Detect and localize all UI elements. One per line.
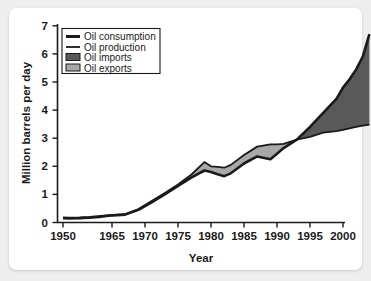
x-tick-label: 1985 [231,230,257,242]
y-tick-label: 0 [42,217,48,229]
legend-label: Oil consumption [84,31,156,42]
y-tick-label: 5 [42,76,49,88]
oil-consumption-production-chart: 0 1 2 3 4 5 6 7 1950 1965 1970 1975 [0,0,371,281]
oil-imports-area [297,34,370,139]
y-tick-label: 1 [42,188,49,200]
oil-exports-area [63,140,297,219]
x-tick-label: 2000 [330,230,356,242]
x-axis-tick-labels: 1950 1965 1970 1975 1980 1985 1990 1995 … [50,230,356,242]
x-tick-label: 1950 [50,230,76,242]
y-tick-label: 4 [42,104,49,116]
y-tick-label: 7 [42,20,48,32]
x-tick-label: 1970 [132,230,158,242]
x-axis-title: Year [189,252,214,264]
y-axis-tick-labels: 0 1 2 3 4 5 6 7 [42,20,49,229]
x-tick-label: 1990 [264,230,290,242]
x-tick-label: 1965 [99,230,125,242]
legend-swatch-exports-icon [66,64,80,71]
legend-label: Oil imports [84,52,132,63]
page-background: 0 1 2 3 4 5 6 7 1950 1965 1970 1975 [0,0,371,281]
legend-swatch-imports-icon [66,54,80,61]
y-tick-label: 2 [42,160,48,172]
x-tick-label: 1980 [198,230,224,242]
legend-label: Oil production [84,42,146,53]
x-tick-label: 1975 [165,230,191,242]
y-axis-title: Million barrels per day [20,61,32,184]
y-tick-label: 6 [42,48,48,60]
chart-legend: Oil consumption Oil production Oil impor… [62,29,160,74]
x-tick-label: 1995 [297,230,323,242]
legend-label: Oil exports [84,63,132,74]
y-tick-label: 3 [42,132,48,144]
